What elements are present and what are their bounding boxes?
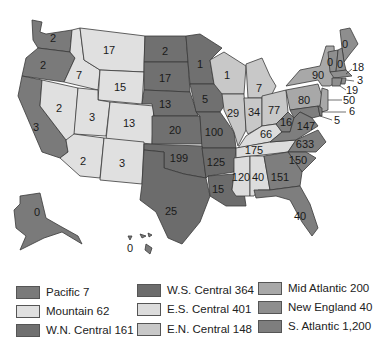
label-ca: 3 — [33, 121, 39, 133]
label-ia: 5 — [202, 93, 208, 105]
label-ok: 199 — [170, 152, 188, 164]
legend-swatch-wn-central — [16, 324, 40, 337]
label-or: 2 — [40, 59, 46, 71]
label-wv: 16 — [280, 116, 292, 128]
label-tn: 175 — [245, 144, 263, 156]
label-ga: 151 — [271, 171, 289, 183]
state-ct — [332, 78, 342, 86]
label-sd: 17 — [159, 72, 171, 84]
label-la: 15 — [212, 183, 224, 195]
label-wy: 15 — [114, 81, 126, 93]
label-in: 34 — [248, 106, 260, 118]
label-il: 29 — [227, 107, 239, 119]
label-co: 13 — [123, 117, 135, 129]
legend-swatch-new-england — [258, 301, 282, 314]
label-ne: 13 — [159, 98, 171, 110]
label-mn: 1 — [197, 58, 203, 70]
legend-item-ws-central: W.S. Central 364 — [137, 282, 254, 298]
label-nd: 2 — [162, 45, 168, 57]
us-choropleth-map: 2 2 3 0 0 7 17 15 2 3 13 2 3 2 17 13 20 … — [0, 0, 377, 270]
label-va: 147 — [297, 120, 315, 132]
legend-item-es-central: E.S. Central 401 — [137, 301, 251, 317]
label-fl: 40 — [294, 210, 306, 222]
legend-swatch-es-central — [137, 303, 161, 316]
label-vt: 0 — [327, 56, 333, 68]
label-sc: 150 — [289, 154, 307, 166]
legend-swatch-mid-atlantic — [258, 282, 282, 295]
legend-swatch-pacific — [16, 286, 40, 299]
state-ak — [14, 193, 82, 250]
legend-item-mountain: Mountain 62 — [16, 303, 109, 319]
legend-swatch-mountain — [16, 305, 40, 318]
label-nv: 2 — [56, 102, 62, 114]
legend-item-s-atlantic: S. Atlantic 1,200 — [258, 318, 371, 334]
region-ws-central — [140, 144, 246, 244]
legend-item-new-england: New England 40 — [258, 299, 372, 315]
legend-swatch-ws-central — [137, 284, 161, 297]
label-nc: 633 — [296, 138, 314, 150]
legend-label-wn-central: W.N. Central 161 — [46, 324, 134, 336]
label-id: 7 — [76, 69, 82, 81]
label-ma: 18 — [352, 61, 364, 73]
label-wi: 1 — [224, 69, 230, 81]
label-wa: 2 — [50, 32, 56, 44]
label-mo: 100 — [205, 126, 223, 138]
label-ms: 120 — [232, 171, 250, 183]
label-ks: 20 — [169, 124, 181, 136]
label-me: 0 — [342, 38, 348, 50]
legend-label-en-central: E.N. Central 148 — [167, 323, 252, 335]
label-ak: 0 — [34, 206, 40, 218]
label-pa: 80 — [298, 94, 310, 106]
legend-label-es-central: E.S. Central 401 — [167, 303, 251, 315]
label-ky: 66 — [260, 128, 272, 140]
legend-swatch-en-central — [137, 323, 161, 336]
label-tx: 25 — [165, 205, 177, 217]
label-nm: 3 — [119, 157, 125, 169]
state-fl — [254, 186, 318, 236]
label-ct: 19 — [346, 84, 358, 96]
label-ar: 125 — [207, 156, 225, 168]
state-ma — [330, 70, 352, 78]
legend-label-s-atlantic: S. Atlantic 1,200 — [288, 320, 371, 332]
label-hi: 0 — [127, 242, 133, 254]
legend-label-ws-central: W.S. Central 364 — [167, 284, 254, 296]
label-ut: 3 — [89, 111, 95, 123]
legend-item-pacific: Pacific 7 — [16, 284, 89, 300]
legend-item-en-central: E.N. Central 148 — [137, 321, 252, 337]
label-md: 5 — [334, 114, 340, 126]
legend-item-mid-atlantic: Mid Atlantic 200 — [258, 280, 369, 296]
legend-label-mid-atlantic: Mid Atlantic 200 — [288, 282, 369, 294]
label-oh: 77 — [268, 104, 280, 116]
label-mi: 7 — [256, 82, 262, 94]
label-de: 6 — [349, 105, 355, 117]
legend-item-wn-central: W.N. Central 161 — [16, 322, 134, 338]
legend-label-mountain: Mountain 62 — [46, 305, 109, 317]
label-nh: 0 — [337, 58, 343, 70]
legend-label-new-england: New England 40 — [288, 301, 372, 313]
label-ny: 90 — [312, 69, 324, 81]
label-az: 2 — [80, 155, 86, 167]
label-mt: 17 — [103, 44, 115, 56]
legend-label-pacific: Pacific 7 — [46, 286, 89, 298]
legend-swatch-s-atlantic — [258, 320, 282, 333]
label-al: 40 — [252, 171, 264, 183]
